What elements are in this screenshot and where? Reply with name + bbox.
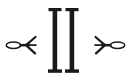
loop-shape [6, 42, 20, 49]
serif-bar-left-svg [48, 8, 62, 73]
dart-loop-left-svg [3, 33, 37, 57]
image-canvas [0, 0, 134, 81]
dart-loop-right-svg [94, 33, 128, 57]
serif-bar-left [48, 8, 62, 73]
dart-loop-left [3, 33, 37, 57]
loop-shape [110, 42, 124, 49]
serif-bar-right-svg [65, 8, 79, 73]
bottom-serif [48, 69, 62, 72]
dart-loop-right [94, 33, 128, 57]
bottom-serif [65, 69, 79, 72]
stem [53, 11, 58, 71]
serif-bar-right [65, 8, 79, 73]
stem [70, 11, 75, 71]
numeral-group [44, 0, 90, 81]
glyph-layer [0, 0, 134, 81]
